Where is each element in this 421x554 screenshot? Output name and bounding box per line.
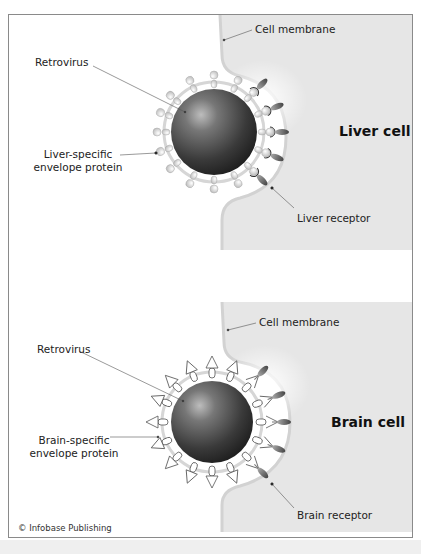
brain-cell-title: Brain cell bbox=[331, 414, 405, 430]
brain-membrane-label: Cell membrane bbox=[259, 316, 339, 329]
liver-receptor-label: Liver receptor bbox=[297, 212, 370, 225]
brain-retrovirus-core bbox=[171, 381, 253, 463]
liver-protein-label-2: envelope protein bbox=[23, 161, 133, 174]
copyright-credit: © Infobase Publishing bbox=[18, 523, 112, 533]
brain-protein-label-1: Brain-specific bbox=[24, 434, 124, 447]
liver-retrovirus-core bbox=[171, 89, 257, 175]
liver-protein-label-1: Liver-specific bbox=[28, 148, 128, 161]
diagram-canvas bbox=[0, 0, 421, 554]
liver-retrovirus-label: Retrovirus bbox=[35, 56, 88, 69]
brain-retrovirus-label: Retrovirus bbox=[37, 343, 90, 356]
brain-protein-label-2: envelope protein bbox=[19, 447, 129, 460]
liver-cell-title: Liver cell bbox=[339, 123, 411, 139]
brain-receptor-label: Brain receptor bbox=[297, 509, 372, 522]
liver-membrane-label: Cell membrane bbox=[255, 23, 335, 36]
